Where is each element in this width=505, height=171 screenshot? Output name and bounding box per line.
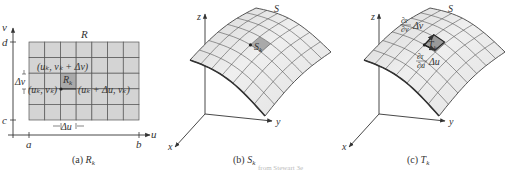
caption-a: (a) Rk — [72, 154, 96, 167]
grid-cell — [123, 42, 139, 58]
label-left-point: (uₖ, vₖ) — [28, 84, 58, 96]
axis-z-label: z — [370, 11, 375, 22]
svg-text:∂r: ∂r — [417, 52, 424, 61]
region-r-grid — [29, 42, 139, 120]
grid-cell — [60, 42, 76, 58]
surface-s — [190, 8, 331, 116]
label-top-point: (uₖ, vₖ + Δv) — [37, 61, 89, 73]
axis-y-label: y — [448, 116, 454, 127]
delta-u-label: Δu — [60, 121, 72, 132]
axis-v-label: v — [2, 21, 7, 33]
grid-cell — [60, 89, 76, 105]
grid-cell — [92, 42, 108, 58]
axis-y-label: y — [275, 116, 281, 127]
footer-faint-text: from Stewart 3e — [258, 164, 303, 171]
panel-b: z y x S Sk (b) Sk — [167, 3, 331, 167]
caption-c: (c) Tk — [407, 154, 430, 167]
grid-cell — [29, 42, 45, 58]
x-axis — [175, 114, 205, 147]
grid-cell — [108, 104, 124, 120]
y-axis — [379, 114, 445, 121]
grid-cell — [108, 42, 124, 58]
grid-cell — [92, 58, 108, 74]
surface-fill — [190, 8, 331, 116]
grid-cell — [76, 104, 92, 120]
tick-a-label: a — [26, 138, 32, 150]
grid-cell — [45, 42, 61, 58]
surface-s-label: S — [274, 3, 279, 14]
axis-x-label: x — [167, 141, 173, 152]
panel-c: z y x S ∂r ∂v Δv ∂r ∂u Δu Tk (c) Tk — [341, 3, 505, 167]
delta-v-label: Δv — [14, 76, 26, 87]
caption-b: (b) Sk — [233, 154, 256, 167]
grid-cell — [123, 104, 139, 120]
panel-a: v u d c a b R Rk (uₖ, vₖ + Δv) (uₖ, vₖ) … — [2, 21, 157, 167]
svg-text:∂v: ∂v — [401, 25, 409, 34]
grid-cell — [108, 58, 124, 74]
svg-text:∂r: ∂r — [401, 16, 408, 25]
grid-cell — [29, 104, 45, 120]
tick-d-label: d — [2, 36, 8, 48]
grid-cell — [92, 104, 108, 120]
tick-b-label: b — [136, 138, 142, 150]
grid-cell — [60, 104, 76, 120]
axis-u-label: u — [151, 128, 157, 140]
y-axis — [205, 114, 272, 121]
svg-text:∂u: ∂u — [417, 61, 425, 70]
grid-cell — [123, 58, 139, 74]
figure: v u d c a b R Rk (uₖ, vₖ + Δv) (uₖ, vₖ) … — [0, 0, 505, 171]
x-axis — [349, 114, 379, 147]
tick-c-label: c — [2, 114, 7, 126]
axis-x-label: x — [341, 141, 347, 152]
point-marker — [249, 43, 252, 46]
region-r-label: R — [80, 28, 88, 40]
svg-text:Δv: Δv — [412, 20, 424, 31]
grid-cell — [76, 42, 92, 58]
svg-text:Δu: Δu — [428, 56, 440, 67]
surface-s-label: S — [448, 3, 453, 14]
grid-cell — [45, 104, 61, 120]
label-right-point: (uₖ + Δu, vₖ) — [78, 84, 130, 96]
axis-z-label: z — [196, 11, 201, 22]
